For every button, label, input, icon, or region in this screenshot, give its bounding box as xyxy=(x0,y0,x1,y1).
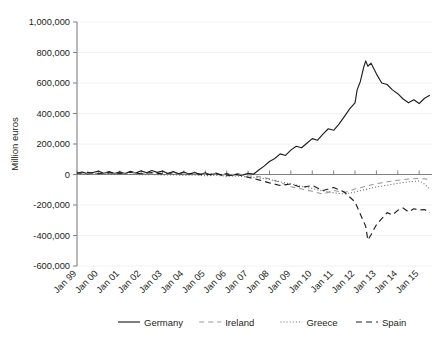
x-tick-label: Jan 08 xyxy=(244,268,271,295)
x-tick-label: Jan 14 xyxy=(372,268,399,295)
y-tick-label: 600,000 xyxy=(36,78,70,88)
x-tick-label: Jan 10 xyxy=(287,268,314,295)
x-tick-label: Jan 03 xyxy=(137,268,164,295)
series-line-germany xyxy=(77,61,430,176)
series-line-spain xyxy=(77,172,430,240)
x-tick-label: Jan 09 xyxy=(265,268,292,295)
x-tick-label: Jan 01 xyxy=(94,268,121,295)
legend-label-greece: Greece xyxy=(306,317,337,328)
legend-label-spain: Spain xyxy=(382,317,406,328)
x-tick-label: Jan 07 xyxy=(223,268,250,295)
y-tick-label: 400,000 xyxy=(36,109,70,119)
chart-svg: 1,000,000800,000600,000400,000200,0000-2… xyxy=(0,0,441,345)
x-tick-label: Jan 12 xyxy=(330,268,357,295)
x-tick-label: Jan 06 xyxy=(201,268,228,295)
x-tick-label: Jan 13 xyxy=(351,268,378,295)
x-tick-label: Jan 00 xyxy=(73,268,100,295)
y-axis-ticks: 1,000,000800,000600,000400,000200,0000-2… xyxy=(29,17,77,271)
chart-figure: 1,000,000800,000600,000400,000200,0000-2… xyxy=(0,0,441,345)
y-tick-label: 0 xyxy=(65,170,70,180)
y-tick-label: 800,000 xyxy=(36,48,70,58)
x-axis-ticks: Jan 99Jan 00Jan 01Jan 02Jan 03Jan 04Jan … xyxy=(52,171,421,296)
x-tick-label: Jan 05 xyxy=(180,268,207,295)
gridlines xyxy=(77,22,432,266)
x-tick-label: Jan 99 xyxy=(52,268,79,295)
series-line-ireland xyxy=(77,172,430,194)
x-tick-label: Jan 04 xyxy=(159,268,186,295)
y-tick-label: -400,000 xyxy=(33,231,70,241)
legend-label-ireland: Ireland xyxy=(225,317,254,328)
y-axis-title: Million euros xyxy=(9,117,20,171)
y-tick-label: -200,000 xyxy=(33,200,70,210)
legend: GermanyIrelandGreeceSpain xyxy=(118,317,406,328)
series-line-greece xyxy=(77,174,430,194)
y-tick-label: 200,000 xyxy=(36,139,70,149)
legend-label-germany: Germany xyxy=(144,317,183,328)
y-tick-label: 1,000,000 xyxy=(29,17,70,27)
y-tick-label: -600,000 xyxy=(33,261,70,271)
x-tick-label: Jan 15 xyxy=(394,268,421,295)
x-tick-label: Jan 02 xyxy=(116,268,143,295)
